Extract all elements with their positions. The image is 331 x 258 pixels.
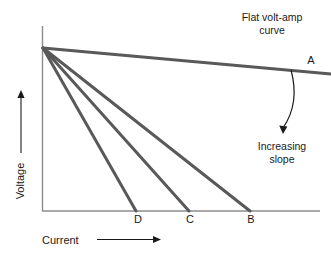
arrow-right-icon bbox=[153, 236, 161, 243]
curve-label-d: D bbox=[134, 213, 142, 225]
curve-line-b bbox=[43, 48, 250, 211]
curve-line-c bbox=[43, 48, 189, 211]
increasing-slope-annotation-line2: slope bbox=[269, 153, 294, 165]
curve-label-b: B bbox=[247, 213, 254, 225]
arrow-up-icon bbox=[17, 90, 24, 98]
curve-line-d bbox=[43, 48, 136, 211]
curved-arrow-icon bbox=[283, 70, 294, 128]
curve-label-a: A bbox=[307, 54, 315, 66]
volt-amp-curve-svg: Current Voltage A B C D Flat volt-amp cu… bbox=[0, 0, 331, 258]
y-axis-label: Voltage bbox=[14, 163, 26, 200]
flat-curve-annotation-line1: Flat volt-amp bbox=[242, 11, 303, 23]
curved-arrow-head-icon bbox=[279, 126, 287, 134]
increasing-slope-annotation-line1: Increasing bbox=[258, 140, 307, 152]
curve-label-c: C bbox=[186, 213, 194, 225]
x-axis-label: Current bbox=[42, 234, 79, 246]
volt-amp-curve-diagram: Current Voltage A B C D Flat volt-amp cu… bbox=[0, 0, 331, 258]
curve-line-a bbox=[43, 48, 331, 74]
flat-curve-annotation-line2: curve bbox=[259, 24, 285, 36]
